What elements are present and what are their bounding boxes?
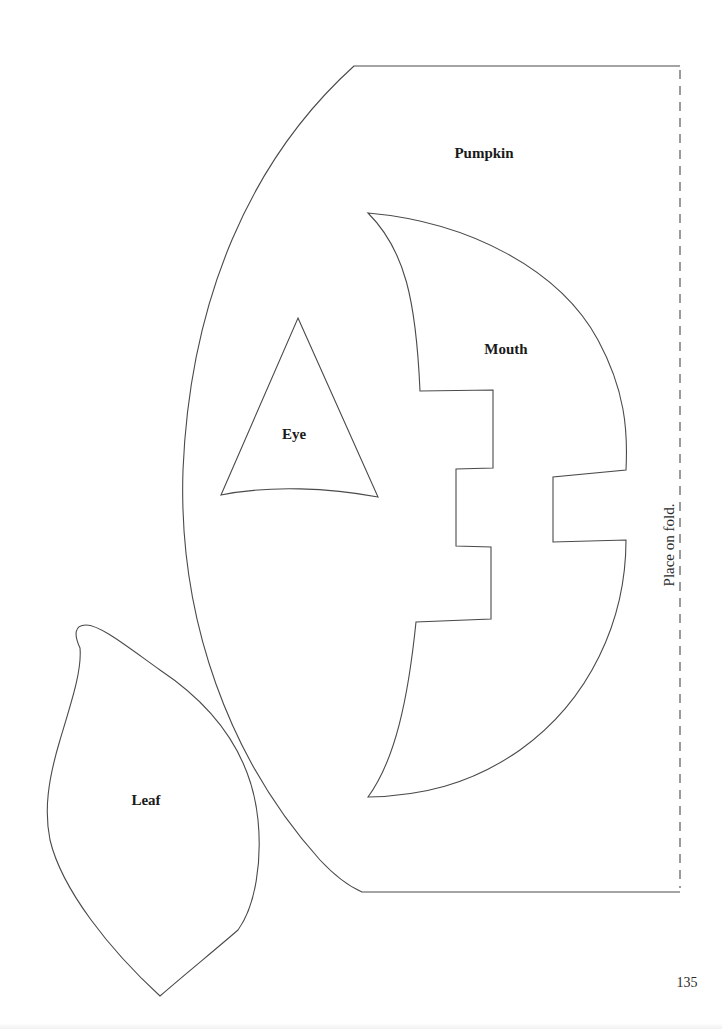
pattern-shapes: [0, 0, 722, 1029]
pumpkin-label: Pumpkin: [454, 145, 513, 162]
scan-edge-shadow: [0, 1023, 722, 1029]
leaf-label: Leaf: [131, 792, 160, 809]
eye-outline: [221, 318, 378, 497]
page-number: 135: [677, 975, 698, 991]
pumpkin-outline: [183, 66, 680, 892]
mouth-outline: [368, 213, 626, 797]
pattern-page: Pumpkin Mouth Eye Leaf Place on fold. 13…: [0, 0, 722, 1029]
mouth-label: Mouth: [484, 341, 527, 358]
leaf-outline: [47, 625, 259, 996]
fold-instruction: Place on fold.: [661, 504, 678, 587]
eye-label: Eye: [282, 426, 306, 443]
